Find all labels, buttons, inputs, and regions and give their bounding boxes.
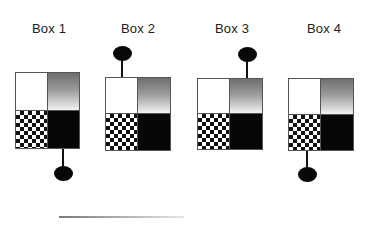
box-3-knob-icon	[238, 47, 257, 62]
black-quadrant	[48, 111, 80, 149]
box-2-knob-icon	[113, 46, 132, 61]
box-1	[15, 72, 80, 149]
bottom-divider	[59, 216, 184, 218]
gradient-quadrant	[48, 73, 80, 111]
box-2-label: Box 2	[121, 21, 155, 36]
box-2-knob-stick	[121, 60, 123, 77]
box-4-knob-icon	[298, 167, 317, 182]
white-quadrant	[198, 79, 230, 114]
gradient-quadrant	[138, 78, 170, 114]
checkerboard-quadrant	[198, 114, 230, 149]
box-4	[288, 78, 354, 151]
box-4-label: Box 4	[307, 21, 341, 36]
white-quadrant	[16, 73, 48, 111]
box-1-knob-icon	[54, 166, 73, 181]
box-1-label: Box 1	[32, 21, 66, 36]
gradient-quadrant	[230, 79, 262, 114]
white-quadrant	[289, 79, 321, 115]
checkerboard-quadrant	[106, 114, 138, 150]
black-quadrant	[230, 114, 262, 149]
box-3-knob-stick	[246, 60, 248, 78]
gradient-quadrant	[321, 79, 353, 115]
white-quadrant	[106, 78, 138, 114]
box-3	[197, 78, 263, 150]
checkerboard-quadrant	[289, 115, 321, 151]
box-1-knob-stick	[62, 149, 64, 167]
box-3-label: Box 3	[215, 21, 249, 36]
black-quadrant	[138, 114, 170, 150]
box-2	[105, 77, 171, 151]
checkerboard-quadrant	[16, 111, 48, 149]
black-quadrant	[321, 115, 353, 151]
